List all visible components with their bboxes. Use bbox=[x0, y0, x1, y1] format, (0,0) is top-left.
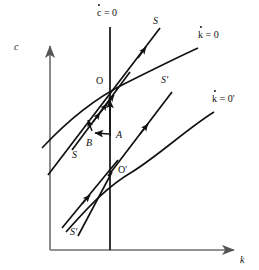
saddle-path-S-arrow-1 bbox=[138, 47, 146, 58]
label-point-A: A bbox=[116, 130, 122, 140]
saddle-path-Sprime-lower-line-2 bbox=[78, 172, 112, 236]
saddle-path-Sprime-lower-arrow bbox=[82, 195, 90, 204]
label-saddle-path-S-upper: S bbox=[153, 16, 158, 26]
label-axis-c: c bbox=[14, 42, 18, 52]
annotation-arrow-A-to-B bbox=[95, 133, 109, 134]
label-locus-cdot-zero: c = 0 bbox=[97, 8, 117, 18]
label-saddle-path-Sprime-upper: S' bbox=[161, 75, 168, 85]
phase-diagram-figure: c = 0 k = 0 k = 0' S S S' S' O O' A B c … bbox=[0, 0, 259, 270]
diagram-canvas bbox=[0, 0, 259, 270]
saddle-path-S bbox=[48, 28, 160, 175]
label-saddle-path-Sprime-lower: S' bbox=[70, 227, 77, 237]
label-cdot-rest: = 0 bbox=[101, 7, 117, 18]
label-axis-k: k bbox=[240, 255, 244, 265]
annotation-arrow-B-up bbox=[88, 120, 92, 131]
label-kdot-base: k bbox=[198, 29, 203, 40]
label-point-O-prime: O' bbox=[118, 165, 127, 175]
label-kdotp-base: k bbox=[212, 93, 217, 104]
label-point-O: O bbox=[96, 76, 103, 86]
label-point-B: B bbox=[86, 138, 92, 148]
locus-kdot-zero-prime-curve bbox=[66, 112, 214, 232]
label-cdot-base: c bbox=[97, 7, 101, 18]
saddle-path-Sprime-upper-arrow bbox=[140, 124, 148, 134]
label-locus-kdot-zero: k = 0 bbox=[198, 30, 219, 40]
label-saddle-path-S-lower: S bbox=[72, 150, 77, 160]
label-kdot-rest: = 0 bbox=[203, 29, 219, 40]
label-locus-kdot-zero-prime: k = 0' bbox=[212, 94, 234, 104]
label-kdotp-rest: = 0' bbox=[217, 93, 234, 104]
